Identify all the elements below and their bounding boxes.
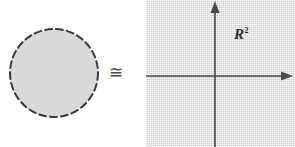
plane-label-exponent: 2 xyxy=(245,26,249,35)
x-axis-arrowhead xyxy=(281,72,293,81)
plane-panel: R2 xyxy=(146,0,295,147)
disk-shape xyxy=(8,27,100,119)
plane-label-base: R xyxy=(234,26,244,42)
disk-panel xyxy=(0,0,105,147)
y-axis-arrowhead xyxy=(211,1,220,13)
disk-circle xyxy=(10,29,98,117)
axes-group xyxy=(146,0,295,147)
plane-label: R2 xyxy=(234,26,249,43)
congruence-symbol: ≅ xyxy=(104,62,128,84)
math-figure: ≅ R2 xyxy=(0,0,295,147)
